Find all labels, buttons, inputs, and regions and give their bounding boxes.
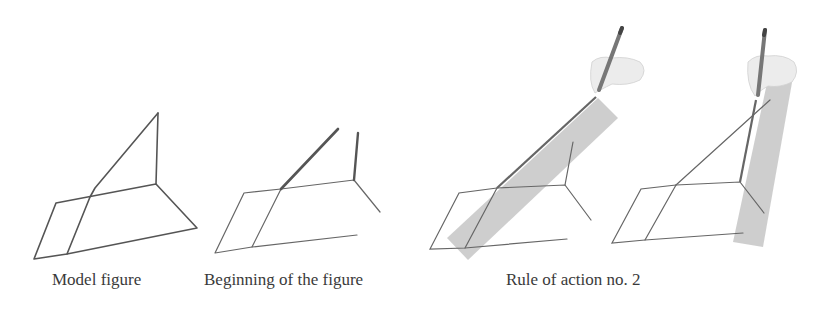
caption-model-figure: Model figure — [52, 270, 141, 290]
rule-step-a-drawing — [430, 28, 644, 260]
caption-rule-of-action: Rule of action no. 2 — [506, 270, 641, 290]
figure-canvas — [0, 0, 819, 309]
shaded-guide-band — [447, 98, 618, 260]
model-figure-drawing — [34, 113, 197, 259]
caption-beginning-figure: Beginning of the figure — [204, 270, 363, 290]
beginning-figure-drawing — [215, 129, 380, 253]
hand-with-pencil-icon — [591, 28, 644, 93]
shaded-guide-band — [733, 77, 793, 247]
